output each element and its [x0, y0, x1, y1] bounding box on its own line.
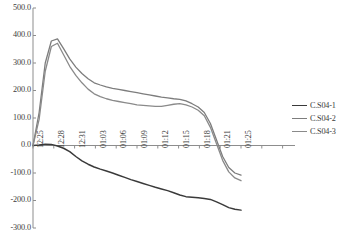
- x-axis-tick-label: 01:09: [140, 130, 149, 148]
- legend-label: C.S04-1: [310, 101, 336, 110]
- y-axis-tick-label: 300.0: [13, 58, 31, 67]
- chart-legend: C.S04-1C.S04-2C.S04-3: [292, 99, 361, 138]
- y-axis-tick-label: -300.0: [10, 223, 31, 232]
- series-line-cs04-3: [33, 43, 241, 181]
- y-axis-tick-label: 500.0: [13, 3, 31, 12]
- legend-item[interactable]: C.S04-3: [292, 125, 361, 138]
- y-axis-tick-labels: 500.0400.0300.0200.0100.00.0-100.0-200.0…: [0, 0, 31, 243]
- x-axis-tick-label: 01:18: [203, 130, 212, 148]
- legend-label: C.S04-2: [310, 114, 336, 123]
- x-axis-tick-label: 01:03: [99, 130, 108, 148]
- series-line-cs04-1: [33, 144, 241, 210]
- y-axis-tick-label: 0.0: [21, 140, 31, 149]
- y-axis-tick-label: 100.0: [13, 113, 31, 122]
- x-axis-tick-label: 01:12: [161, 130, 170, 148]
- y-axis-tick-label: -200.0: [10, 195, 31, 204]
- legend-color-swatch: [292, 118, 307, 119]
- legend-item[interactable]: C.S04-1: [292, 99, 361, 112]
- y-axis-tick-label: 200.0: [13, 85, 31, 94]
- x-axis-tick-label: 01:15: [182, 130, 191, 148]
- legend-label: C.S04-3: [310, 127, 336, 136]
- legend-item[interactable]: C.S04-2: [292, 112, 361, 125]
- x-axis-tick-label: 01:25: [244, 130, 253, 148]
- x-axis-tick-label: 12:25: [36, 130, 45, 148]
- y-axis-tick-label: 400.0: [13, 30, 31, 39]
- legend-color-swatch: [292, 131, 307, 132]
- x-axis-tick-label: 01:21: [223, 130, 232, 148]
- x-axis-tick-label: 12:28: [57, 130, 66, 148]
- chart-container: 500.0400.0300.0200.0100.00.0-100.0-200.0…: [0, 0, 361, 243]
- legend-color-swatch: [292, 105, 307, 106]
- x-axis-tick-label: 01:06: [119, 130, 128, 148]
- series-line-cs04-2: [33, 39, 241, 175]
- y-axis-tick-label: -100.0: [10, 168, 31, 177]
- x-axis-tick-label: 12:31: [78, 130, 87, 148]
